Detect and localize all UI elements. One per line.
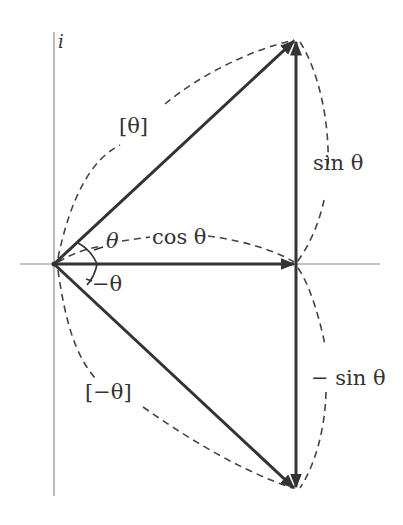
dashed-arc-cos-right: [208, 236, 294, 262]
dashed-arc-sin-lower: [297, 200, 324, 262]
label-rotation-theta: [θ]: [119, 114, 148, 138]
origin-point: [52, 262, 57, 267]
dashed-arc-neg-theta-lower: [143, 407, 292, 488]
label-rotation-neg-theta: [−θ]: [85, 380, 132, 404]
dashed-arc-neg-sin-upper: [298, 268, 325, 345]
label-cos-theta: cos θ: [152, 225, 207, 249]
dashed-arc-neg-sin-lower: [300, 392, 326, 488]
imaginary-axis-label: i: [58, 31, 64, 52]
angle-arc-theta: [78, 243, 97, 264]
label-angle-theta: θ: [106, 229, 119, 253]
label-angle-neg-theta: −θ: [92, 272, 122, 296]
dashed-arc-cos-mid: [122, 237, 150, 241]
label-neg-sin-theta: − sin θ: [311, 366, 386, 390]
label-sin-theta: sin θ: [313, 151, 363, 175]
dashed-arc-theta-upper: [165, 40, 294, 104]
vector-rotation-neg-theta: [54, 264, 294, 488]
rotation-diagram: i [θ] [−θ] θ −θ cos θ sin θ − sin θ: [0, 0, 403, 525]
